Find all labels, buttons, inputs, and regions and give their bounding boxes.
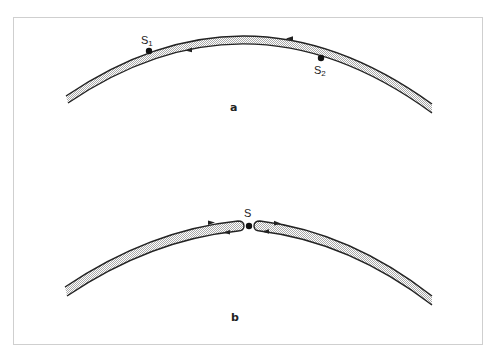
point-s1-label: S1 <box>141 34 153 48</box>
panel-b: S b <box>65 207 432 324</box>
point-s2-label: S2 <box>314 64 326 78</box>
point-s2 <box>318 55 324 61</box>
point-s-label: S <box>244 207 251 219</box>
boundary-b-right <box>254 221 432 305</box>
band-fill-a <box>66 36 432 113</box>
panel-label-a: a <box>230 101 237 114</box>
panel-label-b: b <box>231 311 239 324</box>
inner-boundary-a <box>68 44 432 113</box>
band-fill-b-left <box>65 221 244 296</box>
panel-a: S1 S2 a <box>66 34 432 114</box>
point-s <box>246 223 252 229</box>
diagram-canvas: S1 S2 a S b <box>0 0 497 355</box>
point-s1 <box>146 48 152 54</box>
